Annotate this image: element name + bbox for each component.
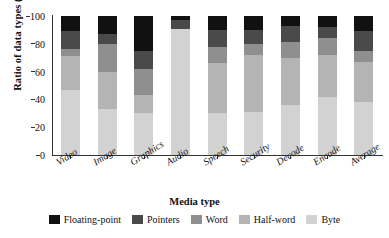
bar-segment-half-word [318, 55, 337, 97]
y-axis-tick-label: 100 [30, 11, 52, 22]
y-axis-tick-mark [31, 127, 35, 128]
bar-segment-word [134, 69, 153, 95]
bar-segment-pointers [208, 30, 227, 47]
legend-item-half-word[interactable]: Half-word [239, 214, 296, 225]
chart-legend: Floating-pointPointersWordHalf-wordByte [0, 214, 389, 225]
legend-label: Floating-point [64, 214, 121, 225]
bar-segment-pointers [98, 34, 117, 44]
bar-segment-half-word [61, 56, 80, 89]
bar-image [98, 16, 117, 155]
y-axis-tick-label: 20 [35, 122, 52, 133]
y-axis-tick-label: 80 [35, 38, 52, 49]
legend-item-pointers[interactable]: Pointers [132, 214, 180, 225]
legend-item-floating-point[interactable]: Floating-point [49, 214, 121, 225]
bar-segment-floating-point [318, 16, 337, 27]
bar-segment-word [61, 49, 80, 56]
bar-segment-word [281, 42, 300, 57]
bar-segment-byte [61, 90, 80, 155]
bar-segment-floating-point [354, 16, 373, 31]
bar-segment-word [318, 38, 337, 55]
bar-segment-floating-point [61, 16, 80, 31]
bar-segment-pointers [134, 51, 153, 69]
y-axis-tick-mark [31, 71, 35, 72]
bar-segment-word [208, 47, 227, 64]
bar-segment-half-word [134, 95, 153, 113]
bar-segment-pointers [318, 27, 337, 38]
bar-decode [281, 16, 300, 155]
bar-segment-pointers [61, 31, 80, 49]
legend-label: Word [206, 214, 228, 225]
legend-swatch-icon [49, 215, 60, 224]
bar-video [61, 16, 80, 155]
bar-average [354, 16, 373, 155]
y-axis-tick-mark [36, 155, 40, 156]
bar-encode [318, 16, 337, 155]
plot-area: 020406080100 [52, 16, 382, 155]
bar-segment-pointers [281, 26, 300, 43]
bar-segment-half-word [354, 62, 373, 102]
bar-segment-pointers [354, 31, 373, 50]
legend-swatch-icon [239, 215, 250, 224]
y-axis-tick-label: 0 [40, 150, 52, 161]
bar-segment-byte [171, 29, 190, 155]
bar-segment-half-word [98, 72, 117, 110]
legend-item-word[interactable]: Word [191, 214, 228, 225]
y-axis-tick-mark [31, 99, 35, 100]
bar-segment-floating-point [244, 16, 263, 30]
y-axis-title: Ratio of data types (%) [12, 0, 23, 113]
bar-audio [171, 16, 190, 155]
bar-segment-word [354, 51, 373, 62]
bar-segment-half-word [208, 63, 227, 113]
bar-segment-pointers [171, 20, 190, 28]
bar-security [244, 16, 263, 155]
y-axis-tick-label: 40 [35, 94, 52, 105]
y-axis-tick-mark [31, 43, 35, 44]
y-axis-tick-mark [26, 16, 30, 17]
bar-segment-floating-point [208, 16, 227, 30]
bar-segment-half-word [281, 58, 300, 105]
legend-swatch-icon [132, 215, 143, 224]
legend-swatch-icon [306, 215, 317, 224]
legend-item-byte[interactable]: Byte [306, 214, 340, 225]
legend-label: Byte [321, 214, 340, 225]
bar-graphics [134, 16, 153, 155]
bar-segment-floating-point [134, 16, 153, 51]
bar-segment-floating-point [98, 16, 117, 34]
bar-segment-pointers [244, 30, 263, 44]
bar-segment-floating-point [281, 16, 300, 26]
bar-segment-word [98, 44, 117, 72]
stacked-bar-chart: Ratio of data types (%) 020406080100 Med… [0, 0, 389, 238]
bar-speech [208, 16, 227, 155]
bar-segment-half-word [244, 55, 263, 112]
x-axis-title: Media type [0, 196, 389, 207]
y-axis-tick-label: 60 [35, 66, 52, 77]
legend-label: Half-word [254, 214, 296, 225]
legend-label: Pointers [147, 214, 180, 225]
legend-swatch-icon [191, 215, 202, 224]
bar-segment-word [244, 44, 263, 55]
